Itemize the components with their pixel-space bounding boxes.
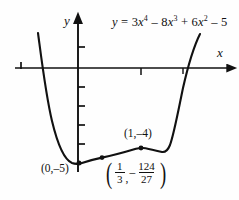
- right-paren: ): [160, 161, 166, 186]
- fraction-one-third: 1 3: [115, 160, 125, 186]
- equation-op2: –: [148, 15, 161, 29]
- data-point-origin: [77, 161, 82, 166]
- point-label-y-intercept: (0,–5): [41, 163, 69, 175]
- equation-op4: –: [208, 15, 221, 29]
- fraction-denominator: 27: [139, 172, 154, 185]
- y-axis-label: y: [64, 14, 70, 27]
- equation-equals: =: [118, 15, 132, 29]
- fraction-124-27: 124 27: [136, 160, 157, 186]
- y-axis-ticks: [78, 47, 85, 144]
- equation-annotation: y = 3x4 – 8x3 + 6x2 – 5: [112, 16, 227, 29]
- equation-op3: +: [178, 15, 192, 29]
- x-axis-label: x: [217, 46, 223, 59]
- fraction-numerator: 124: [136, 160, 157, 172]
- equation-constant: 5: [221, 15, 227, 29]
- graph-figure: y = 3x4 – 8x3 + 6x2 – 5 y x (0,–5) (1,–4…: [0, 0, 239, 200]
- label-minus: –: [128, 167, 135, 179]
- data-point-local-max: [139, 146, 144, 151]
- quartic-curve: [38, 33, 200, 164]
- fraction-denominator: 3: [115, 172, 125, 185]
- point-label-inflection: ( 1 3 , – 124 27 ): [104, 160, 168, 186]
- fraction-numerator: 1: [115, 160, 125, 172]
- point-label-local-max: (1,–4): [124, 128, 152, 140]
- left-paren: (: [106, 161, 112, 186]
